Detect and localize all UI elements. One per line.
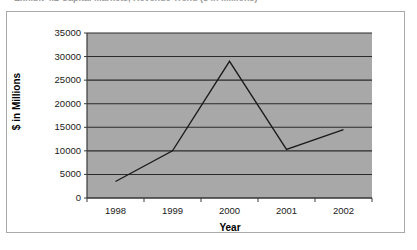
y-tick-label: 25000 — [29, 74, 81, 85]
y-axis-title: $ in Millions — [11, 47, 22, 157]
x-axis-title: Year — [87, 222, 373, 233]
y-tick-label: 20000 — [29, 98, 81, 109]
y-tick-label: 35000 — [29, 27, 81, 38]
x-tick-label: 2001 — [258, 205, 315, 216]
x-tick-label: 1999 — [144, 205, 201, 216]
x-tick-label: 1998 — [87, 205, 144, 216]
y-tick-label: 15000 — [29, 121, 81, 132]
x-tick-label: 2002 — [315, 205, 372, 216]
y-tick-label: 5000 — [29, 168, 81, 179]
y-tick-label: 10000 — [29, 145, 81, 156]
y-tick-label: 0 — [29, 192, 81, 203]
x-tick-label: 2000 — [201, 205, 258, 216]
y-tick-label: 30000 — [29, 51, 81, 62]
